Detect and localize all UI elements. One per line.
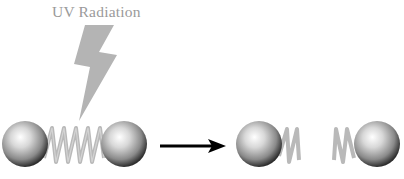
sphere-left-after <box>236 121 282 167</box>
broken-spring-left <box>279 129 299 162</box>
right-arrow-icon <box>160 139 226 153</box>
broken-spring-right <box>334 129 354 162</box>
sphere-left-before <box>2 121 48 167</box>
lightning-bolt-icon <box>74 25 117 121</box>
sphere-right-before <box>101 121 147 167</box>
intact-spring <box>44 128 104 162</box>
diagram-canvas <box>0 0 404 179</box>
sphere-right-after <box>354 121 400 167</box>
